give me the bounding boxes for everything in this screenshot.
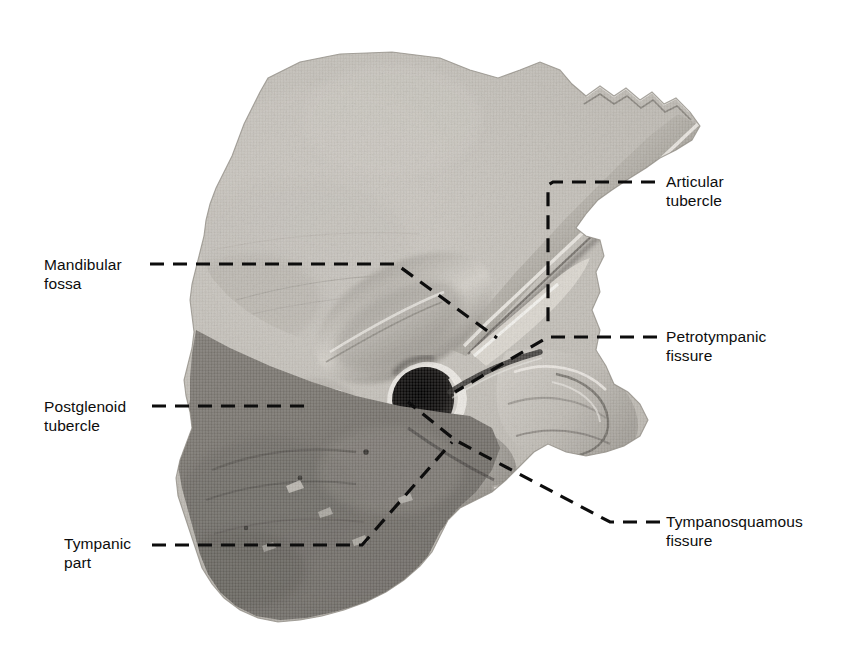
label-postglenoid-tubercle: Postglenoid tubercle: [44, 397, 126, 435]
anatomical-figure: Articular tubercle Petrotympanic fissure…: [0, 0, 863, 670]
leader-petrotympanic-fissure: [455, 337, 657, 392]
leader-articular-tubercle: [548, 182, 655, 330]
leader-tympanosquamous-fissure: [408, 402, 660, 522]
leader-mandibular-fossa: [150, 264, 497, 338]
label-petrotympanic-fissure: Petrotympanic fissure: [666, 327, 766, 365]
label-tympanosquamous-fissure: Tympanosquamous fissure: [666, 512, 803, 550]
label-articular-tubercle: Articular tubercle: [666, 172, 724, 210]
label-mandibular-fossa: Mandibular fossa: [44, 255, 122, 293]
label-tympanic-part: Tympanic part: [64, 534, 131, 572]
leader-tympanic-part: [152, 442, 452, 545]
